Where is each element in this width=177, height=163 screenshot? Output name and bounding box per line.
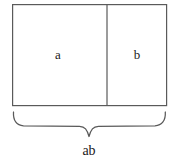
total-width-label: ab xyxy=(82,143,95,158)
region-label-a: a xyxy=(55,47,61,62)
diagram-canvas: a b ab xyxy=(0,0,177,163)
outer-rectangle xyxy=(13,5,167,106)
region-label-b: b xyxy=(134,47,141,62)
area-model-figure: a b ab xyxy=(0,0,177,163)
width-brace xyxy=(13,112,165,137)
